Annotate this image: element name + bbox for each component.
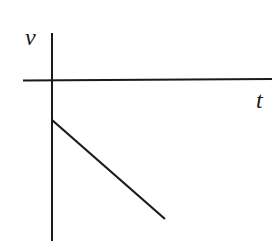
t-axis-label: t (256, 87, 264, 113)
velocity-line (52, 120, 165, 219)
t-axis (23, 79, 272, 81)
velocity-time-graph: v t (0, 0, 276, 241)
v-axis-label: v (25, 24, 36, 50)
